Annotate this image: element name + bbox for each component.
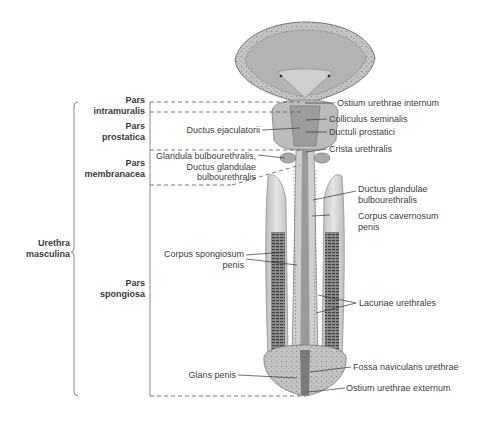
label-colliculus-seminalis: Colliculus seminalis bbox=[329, 114, 408, 125]
label-line: Lacunae urethrales bbox=[359, 298, 436, 309]
label-line: Ductus glandulae bbox=[358, 184, 428, 195]
bulbourethral-gland-right bbox=[314, 153, 330, 163]
label-crista-urethralis: Crista urethralis bbox=[329, 144, 392, 155]
label-line: Pars bbox=[80, 121, 145, 132]
label-line: Urethra bbox=[8, 238, 70, 249]
label-line: Pars bbox=[80, 95, 145, 106]
anatomy-figure: Urethra masculina Pars intramuralis Pars… bbox=[0, 0, 484, 424]
label-ostium-urethrae-internum: Ostium urethrae internum bbox=[337, 98, 439, 109]
label-line: Glandula bulbourethralis, bbox=[150, 151, 256, 162]
label-line: Ostium urethrae internum bbox=[337, 98, 439, 109]
label-line: Colliculus seminalis bbox=[329, 114, 408, 125]
label-line: Ductus glandulae bbox=[150, 162, 256, 173]
label-line: intramuralis bbox=[80, 106, 145, 117]
section-pars-membranacea: Pars membranacea bbox=[80, 158, 145, 180]
label-line: Ostium urethrae externum bbox=[346, 383, 451, 394]
label-corpus-cavernosum: Corpus cavernosum penis bbox=[358, 211, 439, 232]
label-line: Corpus cavernosum bbox=[358, 211, 439, 222]
label-line: bulbourethralis bbox=[150, 172, 256, 183]
label-fossa-navicularis: Fossa navicularis urethrae bbox=[353, 362, 459, 373]
section-pars-prostatica: Pars prostatica bbox=[80, 121, 145, 143]
label-ductus-glandulae-bulbourethralis: Ductus glandulae bulbourethralis bbox=[358, 184, 428, 205]
label-line: membranacea bbox=[80, 169, 145, 180]
label-line: penis bbox=[160, 260, 244, 271]
label-line: masculina bbox=[8, 249, 70, 260]
label-line: Corpus spongiosum bbox=[160, 249, 244, 260]
label-glans-penis: Glans penis bbox=[180, 370, 236, 381]
label-glandula-bulbourethralis: Glandula bulbourethralis, Ductus glandul… bbox=[150, 151, 256, 183]
prostate-shape bbox=[272, 100, 338, 150]
section-pars-spongiosa: Pars spongiosa bbox=[80, 278, 145, 300]
label-line: bulbourethralis bbox=[358, 195, 428, 206]
label-ductus-ejaculatorii: Ductus ejaculatorii bbox=[170, 125, 260, 136]
label-line: Crista urethralis bbox=[329, 144, 392, 155]
label-line: prostatica bbox=[80, 132, 145, 143]
label-line: spongiosa bbox=[80, 289, 145, 300]
label-line: Ductus ejaculatorii bbox=[170, 125, 260, 136]
section-pars-intramuralis: Pars intramuralis bbox=[80, 95, 145, 117]
label-line: Pars bbox=[80, 158, 145, 169]
label-line: Ductuli prostatici bbox=[329, 127, 395, 138]
urethra-masculina-label: Urethra masculina bbox=[8, 238, 70, 260]
label-ostium-urethrae-externum: Ostium urethrae externum bbox=[346, 383, 451, 394]
urethra-bracket bbox=[71, 102, 78, 396]
label-line: Pars bbox=[80, 278, 145, 289]
label-line: Fossa navicularis urethrae bbox=[353, 362, 459, 373]
label-line: penis bbox=[358, 222, 439, 233]
label-lacunae-urethrales: Lacunae urethrales bbox=[359, 298, 436, 309]
label-ductuli-prostatici: Ductuli prostatici bbox=[329, 127, 395, 138]
bladder-shape bbox=[235, 22, 375, 102]
label-corpus-spongiosum: Corpus spongiosum penis bbox=[160, 249, 244, 270]
label-line: Glans penis bbox=[180, 370, 236, 381]
glans-penis bbox=[264, 345, 346, 396]
